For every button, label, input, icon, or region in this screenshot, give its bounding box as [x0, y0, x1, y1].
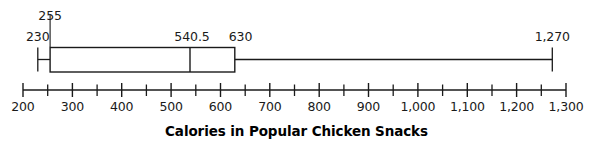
axis-tick-label: 400 [110, 101, 133, 114]
q1-label: 255 [38, 10, 62, 23]
minimum-label: 230 [26, 31, 50, 44]
median-label: 540.5 [174, 31, 209, 44]
axis-tick-label: 500 [159, 101, 182, 114]
axis-tick-label: 600 [209, 101, 232, 114]
axis-tick-label: 200 [11, 101, 34, 114]
axis-tick-label: 300 [61, 101, 84, 114]
axis-tick-label: 700 [258, 101, 281, 114]
chart-axis-title: Calories in Popular Chicken Snacks [0, 123, 593, 139]
axis-tick-label: 1,000 [400, 101, 435, 114]
maximum-label: 1,270 [535, 31, 570, 44]
axis-tick-label: 1,100 [450, 101, 485, 114]
interquartile-box [50, 48, 235, 73]
axis-tick-label: 1,200 [499, 101, 534, 114]
axis-tick-label: 1,300 [549, 101, 584, 114]
axis-tick-label: 800 [308, 101, 331, 114]
q3-label: 630 [229, 31, 253, 44]
boxplot-figure: 255 230 540.5 630 1,270 200 300 400 500 … [0, 0, 593, 147]
axis-tick-label: 900 [357, 101, 380, 114]
